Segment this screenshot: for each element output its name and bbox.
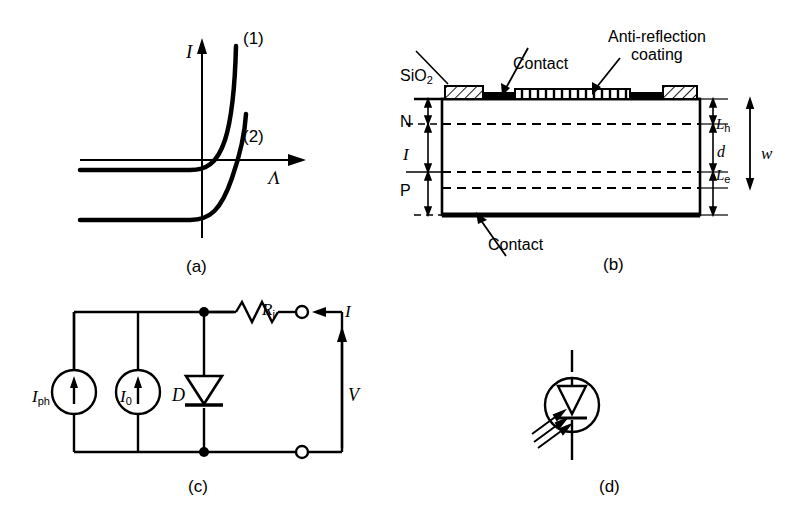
- panel-b-caption: (b): [603, 256, 624, 273]
- panel-d-circuit-symbol: [512, 350, 632, 460]
- region-i-label: I: [403, 146, 409, 163]
- region-p-label: P: [400, 183, 411, 199]
- top-contact-strip: [483, 92, 515, 99]
- dimension-arrow-w: [747, 99, 753, 188]
- y-axis-arrowhead: [197, 38, 207, 54]
- dimension-w-label: w: [761, 145, 772, 162]
- sio2-label-text: SiO: [400, 67, 427, 84]
- panel-a-x-axis-label: V: [269, 168, 281, 187]
- photocurrent-subscript: ph: [38, 395, 50, 407]
- panel-c-caption: (c): [188, 478, 208, 495]
- series-resistor-subscript: i: [272, 308, 274, 320]
- x-axis-arrowhead: [288, 154, 306, 166]
- voltage-arrow: [337, 326, 347, 448]
- terminal-top: [296, 306, 308, 318]
- contact-top-label: Contact: [513, 56, 568, 72]
- anti-reflection-line-2: coating: [631, 46, 683, 63]
- curve-2-path: [80, 114, 246, 220]
- curve-1-path: [80, 46, 236, 170]
- photocurrent-source-label: Iph: [32, 388, 50, 407]
- semiconductor-slab: [442, 99, 700, 215]
- terminal-current-label: I: [345, 303, 351, 320]
- sio2-block-right: [663, 86, 697, 99]
- panel-a-caption: (a): [186, 258, 207, 275]
- anti-reflection-coating-label: Anti-reflection coating: [608, 28, 706, 65]
- panel-a-y-axis-label: I: [186, 42, 192, 61]
- left-dimension-arrows: [425, 99, 431, 215]
- dimension-le-label: Le: [716, 167, 730, 185]
- region-n-label: N: [400, 114, 412, 130]
- contact-bottom-label: Contact: [488, 237, 543, 253]
- series-resistor-symbol-text: R: [262, 300, 272, 319]
- panel-d-caption: (d): [599, 478, 620, 495]
- dimension-d-label: d: [717, 144, 725, 160]
- dark-current-subscript: 0: [126, 395, 132, 407]
- dimension-lh-label: Lh: [716, 116, 730, 134]
- dimension-lh-subscript: h: [724, 122, 730, 134]
- diode-triangle: [186, 376, 222, 404]
- panel-b-device-cross-section: [398, 26, 788, 246]
- sio2-label-subscript: 2: [427, 74, 433, 86]
- anti-reflection-line-1: Anti-reflection: [608, 28, 706, 45]
- panel-a-iv-characteristics: [80, 14, 340, 264]
- sio2-block-left: [445, 86, 483, 99]
- sio2-label: SiO2: [400, 68, 433, 86]
- top-contact-strip-right: [630, 92, 663, 99]
- diode-label: D: [172, 386, 185, 404]
- dimension-le-subscript: e: [724, 173, 730, 185]
- dark-current-source-label: I0: [120, 388, 132, 407]
- panel-a-curve-1-label: (1): [243, 30, 264, 47]
- panel-c-equivalent-circuit: [68, 300, 398, 465]
- anti-reflection-coating-layer: [515, 89, 630, 99]
- junction-dot-bottom: [199, 447, 209, 457]
- series-resistor-label: Ri: [262, 301, 275, 320]
- terminal-voltage-label: V: [348, 386, 359, 404]
- terminal-bottom: [296, 446, 308, 458]
- panel-a-curve-2-label: (2): [243, 128, 264, 145]
- terminal-current-arrow: [312, 307, 342, 317]
